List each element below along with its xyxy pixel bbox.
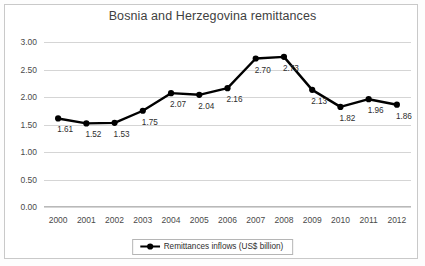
data-point-marker (366, 96, 372, 102)
data-point-marker (140, 108, 146, 114)
data-point-label: 2.07 (170, 100, 186, 109)
data-point-label: 1.52 (85, 130, 101, 139)
x-axis-tick-label: 2008 (274, 215, 293, 225)
data-point-label: 2.13 (311, 97, 327, 106)
x-axis-tick-label: 2011 (360, 215, 378, 225)
series-line-remittances-inflows (44, 42, 411, 207)
chart-legend: Remittances inflows (US$ billion) (132, 239, 294, 255)
y-axis-tick-label: 2.00 (20, 92, 37, 102)
data-point-label: 1.82 (339, 114, 355, 123)
gridline (44, 207, 411, 208)
x-axis-tick-label: 2006 (218, 215, 237, 225)
data-point-marker (196, 92, 202, 98)
data-point-marker (55, 115, 61, 121)
plot-area: 0.000.501.001.502.002.503.00 20002001200… (44, 42, 411, 207)
x-axis-tick-label: 2003 (133, 215, 152, 225)
data-point-marker (281, 54, 287, 60)
data-point-marker (309, 87, 315, 93)
data-point-label: 1.53 (114, 130, 130, 139)
data-point-marker (111, 120, 117, 126)
x-axis-tick-label: 2010 (331, 215, 350, 225)
x-axis-tick-label: 2005 (190, 215, 209, 225)
legend-item-label: Remittances inflows (US$ billion) (164, 242, 284, 251)
chart-container: Bosnia and Herzegovina remittances 0.000… (0, 0, 425, 266)
data-point-marker (337, 104, 343, 110)
x-axis-tick-label: 2007 (246, 215, 265, 225)
x-axis-tick-label: 2009 (303, 215, 322, 225)
x-axis-tick-label: 2002 (105, 215, 124, 225)
data-point-label: 2.73 (283, 64, 299, 73)
x-axis-tick-label: 2000 (49, 215, 68, 225)
x-axis-tick-label: 2001 (77, 215, 96, 225)
x-axis-tick-label: 2012 (387, 215, 406, 225)
data-point-marker (394, 102, 400, 108)
y-axis-tick-label: 0.50 (20, 175, 37, 185)
data-point-marker (83, 120, 89, 126)
data-point-label: 1.96 (368, 106, 384, 115)
data-point-marker (253, 55, 259, 61)
x-axis-tick-label: 2004 (162, 215, 181, 225)
chart-title: Bosnia and Herzegovina remittances (0, 9, 425, 23)
line-marker-icon (140, 242, 160, 251)
data-point-label: 1.86 (396, 112, 412, 121)
data-point-marker (168, 90, 174, 96)
y-axis-tick-label: 3.00 (20, 37, 37, 47)
data-point-label: 2.04 (198, 102, 214, 111)
data-point-marker (224, 85, 230, 91)
data-point-label: 1.61 (57, 125, 73, 134)
data-point-label: 2.70 (255, 66, 271, 75)
y-axis-tick-label: 2.50 (20, 65, 37, 75)
y-axis-tick-label: 0.00 (20, 202, 37, 212)
data-point-label: 2.16 (227, 95, 243, 104)
y-axis-tick-label: 1.00 (20, 147, 37, 157)
y-axis-tick-label: 1.50 (20, 120, 37, 130)
data-point-label: 1.75 (142, 118, 158, 127)
